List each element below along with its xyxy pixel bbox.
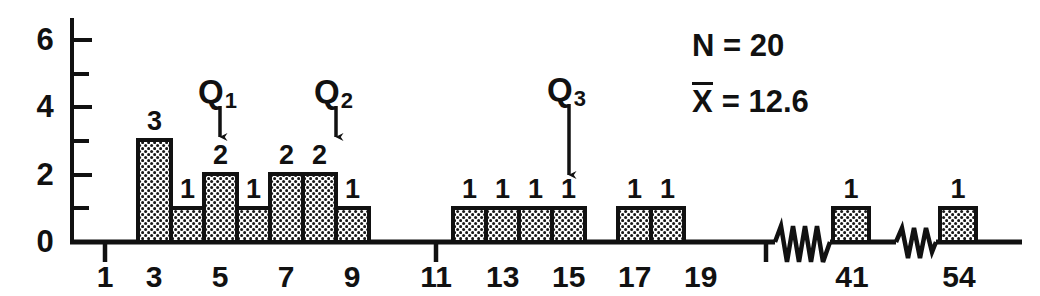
q2-letter: Q (314, 73, 340, 110)
x-tick-label-1: 1 (90, 262, 120, 292)
y-tick-label-6: 6 (30, 24, 60, 55)
q3-label: Q3 (547, 73, 585, 106)
bar-label-54: 1 (942, 176, 974, 203)
mean-symbol: X (692, 82, 713, 117)
bar-label-9: 1 (337, 176, 368, 203)
x-tick-label-54: 54 (942, 262, 976, 292)
bar-41 (833, 208, 869, 242)
sample-size-annotation: N = 20 (692, 30, 784, 61)
bar-label-17: 1 (619, 176, 650, 203)
bar-13 (486, 208, 519, 242)
histogram-figure: 6 4 2 0 1 3 5 7 9 11 13 15 17 19 41 54 3… (0, 0, 1040, 296)
x-tick-label-19: 19 (684, 262, 716, 292)
bar-label-4: 1 (172, 176, 203, 203)
y-tick-label-0: 0 (30, 226, 60, 257)
bar-label-13: 1 (487, 176, 518, 203)
x-tick-label-9: 9 (337, 262, 367, 292)
bar-6 (237, 208, 270, 242)
bar-label-5: 2 (205, 142, 236, 169)
axis-break-1 (775, 226, 830, 262)
bar-15 (552, 208, 585, 242)
bar-14 (519, 208, 552, 242)
q1-label: Q1 (198, 75, 236, 108)
x-tick-label-11: 11 (420, 262, 452, 292)
x-tick-label-7: 7 (271, 262, 301, 292)
x-tick-label-17: 17 (618, 262, 650, 292)
y-tick-label-2: 2 (30, 159, 60, 190)
x-tick-label-13: 13 (486, 262, 518, 292)
bar-5 (204, 174, 237, 242)
bar-label-6: 1 (238, 176, 269, 203)
q3-subscript: 3 (574, 86, 586, 111)
mean-value: = 12.6 (722, 84, 809, 119)
bar-label-18: 1 (652, 176, 683, 203)
bar-label-41: 1 (835, 176, 867, 203)
bar-12 (453, 208, 486, 242)
x-tick-label-41: 41 (835, 262, 869, 292)
axis-break-2 (896, 228, 936, 258)
bar-7 (270, 174, 303, 242)
bar-9 (336, 208, 369, 242)
bar-17 (618, 208, 651, 242)
bar-label-12: 1 (454, 176, 485, 203)
bar-label-14: 1 (520, 176, 551, 203)
mean-annotation: X= 12.6 (692, 82, 809, 117)
x-tick-marks (105, 242, 766, 262)
bar-4 (171, 208, 204, 242)
bar-label-3: 3 (139, 108, 170, 135)
y-axis (72, 18, 92, 242)
bar-3 (138, 140, 171, 242)
q1-subscript: 1 (225, 88, 237, 113)
x-tick-label-3: 3 (139, 262, 169, 292)
bar-label-8: 2 (304, 142, 335, 169)
q1-letter: Q (198, 73, 224, 110)
plot-canvas (0, 0, 1040, 296)
q3-letter: Q (547, 71, 573, 108)
bar-18 (651, 208, 684, 242)
bar-8 (303, 174, 336, 242)
x-tick-label-5: 5 (205, 262, 235, 292)
x-tick-label-15: 15 (552, 262, 584, 292)
bar-54 (940, 208, 976, 242)
q2-label: Q2 (314, 75, 352, 108)
bar-label-15: 1 (553, 176, 584, 203)
bar-label-7: 2 (271, 142, 302, 169)
q2-subscript: 2 (341, 88, 353, 113)
y-tick-label-4: 4 (30, 91, 60, 122)
